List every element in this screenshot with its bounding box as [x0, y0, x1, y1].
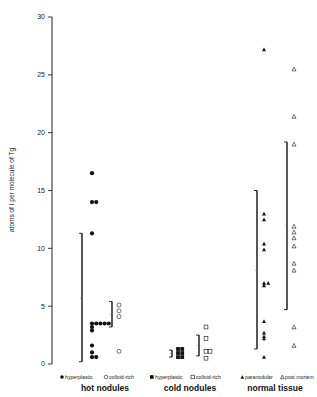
legend: hyperplastic colloid-rich hyperplastic c… — [60, 374, 314, 380]
open-square-icon — [204, 337, 208, 341]
filled-triangle-icon — [262, 212, 266, 216]
legend-paranodular: paranodular — [245, 374, 273, 380]
filled-circle-icon — [94, 200, 98, 204]
legend-cold-colloid: colloid-rich — [196, 374, 221, 380]
filled-circle-icon — [90, 328, 94, 332]
filled-triangle-icon — [266, 281, 270, 285]
filled-triangle-icon — [262, 217, 266, 221]
series-colloid-rich — [196, 325, 212, 360]
y-tick-label: 30 — [37, 13, 45, 20]
filled-circle-icon — [90, 171, 94, 175]
legend-cold-hyperplastic: hyperplastic — [155, 374, 183, 380]
y-axis-title: atoms of I per molecule of Tg — [8, 148, 16, 232]
open-square-icon — [204, 325, 208, 329]
y-tick-label: 5 — [41, 303, 45, 310]
filled-triangle-icon — [241, 375, 245, 379]
group-label-hot: hot nodules — [81, 383, 129, 393]
open-triangle-icon — [292, 268, 296, 272]
filled-triangle-icon — [262, 355, 266, 359]
filled-circle-icon — [103, 321, 107, 325]
filled-circle-icon — [90, 343, 94, 347]
y-tick-label: 25 — [37, 71, 45, 78]
group-label-cold: cold nodules — [164, 383, 217, 393]
filled-circle-icon — [90, 350, 94, 354]
series-hyperplastic — [79, 171, 111, 362]
series-hyperplastic — [169, 347, 184, 359]
series-post-mortem — [284, 67, 296, 347]
open-triangle-icon — [292, 230, 296, 234]
group-label-normal: normal tissue — [247, 383, 303, 393]
filled-triangle-icon — [262, 319, 266, 323]
filled-triangle-icon — [262, 47, 266, 51]
y-tick-label: 10 — [37, 245, 45, 252]
filled-square-icon — [176, 347, 180, 351]
open-square-icon — [204, 349, 208, 353]
y-tick-label: 15 — [37, 187, 45, 194]
y-tick-label: 20 — [37, 129, 45, 136]
filled-triangle-icon — [262, 242, 266, 246]
open-square-icon — [204, 356, 208, 360]
filled-square-icon — [176, 355, 180, 359]
open-triangle-icon — [292, 67, 296, 71]
open-circle-icon — [117, 309, 121, 313]
legend-hot-hyperplastic: hyperplastic — [65, 374, 93, 380]
plot-area — [79, 47, 296, 361]
filled-circle-icon — [107, 321, 111, 325]
open-triangle-icon — [292, 325, 296, 329]
filled-square-icon — [180, 355, 184, 359]
legend-post-mortem: post mortem — [285, 374, 314, 380]
y-axis: 051015202530 — [37, 13, 52, 367]
open-triangle-icon — [292, 261, 296, 265]
filled-square-icon — [180, 351, 184, 355]
open-square-icon — [208, 349, 212, 353]
filled-circle-icon — [98, 321, 102, 325]
filled-square-icon — [150, 375, 154, 379]
legend-hot-colloid: colloid-rich — [109, 374, 134, 380]
open-triangle-icon — [292, 224, 296, 228]
open-circle-icon — [117, 315, 121, 319]
filled-circle-icon — [94, 355, 98, 359]
open-triangle-icon — [292, 343, 296, 347]
series-colloid-rich — [109, 302, 121, 354]
filled-triangle-icon — [262, 331, 266, 335]
open-triangle-icon — [281, 375, 285, 379]
open-triangle-icon — [292, 244, 296, 248]
filled-circle-icon — [90, 231, 94, 235]
series-paranodular — [254, 47, 270, 358]
y-tick-label: 0 — [41, 360, 45, 367]
filled-circle-icon — [90, 200, 94, 204]
filled-circle-icon — [60, 375, 64, 379]
filled-square-icon — [176, 351, 180, 355]
open-triangle-icon — [292, 142, 296, 146]
open-circle-icon — [117, 349, 121, 353]
filled-triangle-icon — [262, 247, 266, 251]
open-triangle-icon — [292, 114, 296, 118]
dot-plot-chart: 051015202530 atoms of I per molecule of … — [0, 0, 317, 397]
filled-circle-icon — [90, 355, 94, 359]
open-square-icon — [191, 375, 195, 379]
open-circle-icon — [117, 303, 121, 307]
filled-square-icon — [180, 347, 184, 351]
filled-circle-icon — [94, 321, 98, 325]
open-circle-icon — [104, 375, 108, 379]
open-triangle-icon — [292, 236, 296, 240]
